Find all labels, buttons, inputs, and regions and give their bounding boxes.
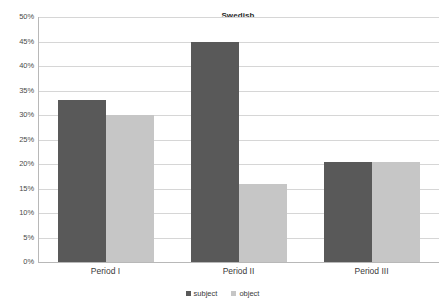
y-axis-tick-label: 40%	[2, 62, 34, 70]
chart-legend: subjectobject	[0, 289, 445, 298]
legend-swatch-icon	[186, 291, 191, 296]
bar-object-period-iii[interactable]	[372, 162, 420, 262]
y-axis-tick-label: 45%	[2, 38, 34, 46]
bar-subject-period-i[interactable]	[58, 100, 106, 262]
x-axis-label-2: Period II	[172, 265, 305, 277]
y-axis-tick-label: 15%	[2, 185, 34, 193]
y-axis-tick-label: 20%	[2, 160, 34, 168]
bar-group	[172, 17, 305, 262]
bar-group	[39, 17, 172, 262]
bar-chart: Swedish 0%5%10%15%20%25%30%35%40%45%50% …	[0, 0, 445, 308]
y-axis-tick-label: 30%	[2, 111, 34, 119]
legend-item-object[interactable]: object	[231, 289, 259, 298]
legend-swatch-icon	[231, 291, 236, 296]
y-axis-tick-label: 35%	[2, 87, 34, 95]
y-axis: 0%5%10%15%20%25%30%35%40%45%50%	[0, 0, 34, 308]
bar-object-period-i[interactable]	[106, 115, 154, 262]
x-axis-label-3: Period III	[305, 265, 438, 277]
bars-layer	[39, 17, 438, 262]
legend-item-subject[interactable]: subject	[186, 289, 218, 298]
y-axis-tick-label: 5%	[2, 234, 34, 242]
y-axis-tick-label: 10%	[2, 209, 34, 217]
x-axis-label-1: Period I	[39, 265, 172, 277]
legend-label: subject	[194, 289, 218, 298]
bar-subject-period-iii[interactable]	[324, 162, 372, 262]
legend-label: object	[239, 289, 259, 298]
x-axis-category-labels: Period IPeriod IIPeriod III	[39, 265, 438, 281]
y-axis-tick-label: 25%	[2, 136, 34, 144]
bar-group	[305, 17, 438, 262]
y-axis-tick-label: 50%	[2, 13, 34, 21]
bar-subject-period-ii[interactable]	[191, 42, 239, 263]
y-axis-tick-label: 0%	[2, 258, 34, 266]
bar-object-period-ii[interactable]	[239, 184, 287, 262]
